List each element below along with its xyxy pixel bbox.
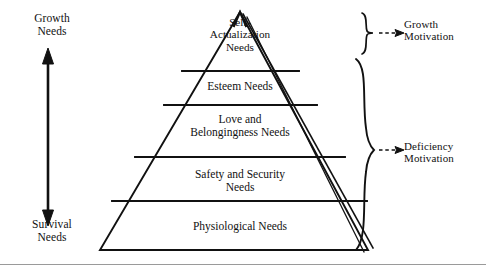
growth-motivation-arrow [379, 30, 404, 37]
growth-survival-arrow [43, 48, 54, 226]
tier-label-love-and-belongingness-needs: Love and Belongingness Needs [140, 113, 340, 138]
bottom-rule [0, 264, 486, 265]
survival-needs-label: Survival Needs [6, 218, 98, 244]
growth-needs-label: Growth Needs [6, 12, 98, 38]
growth-motivation-label: Growth Motivation [404, 18, 486, 43]
arrow-head-deficiency [395, 147, 404, 154]
growth-motivation-brace [362, 13, 373, 54]
maslow-hierarchy-figure: Growth Needs Survival Needs Self- Actual… [0, 0, 486, 273]
tier-label-self-actualization-needs: Self- Actualization Needs [176, 16, 304, 53]
tier-label-safety-and-security-needs: Safety and Security Needs [140, 168, 340, 193]
deficiency-motivation-label: Deficiency Motivation [404, 140, 486, 165]
tier-label-esteem-needs: Esteem Needs [166, 80, 314, 93]
arrow-head-up [43, 48, 54, 64]
arrow-head-growth [395, 30, 404, 37]
brace-path-growth [362, 13, 373, 54]
deficiency-motivation-arrow [379, 147, 404, 154]
tier-label-physiological-needs: Physiological Needs [130, 220, 350, 233]
